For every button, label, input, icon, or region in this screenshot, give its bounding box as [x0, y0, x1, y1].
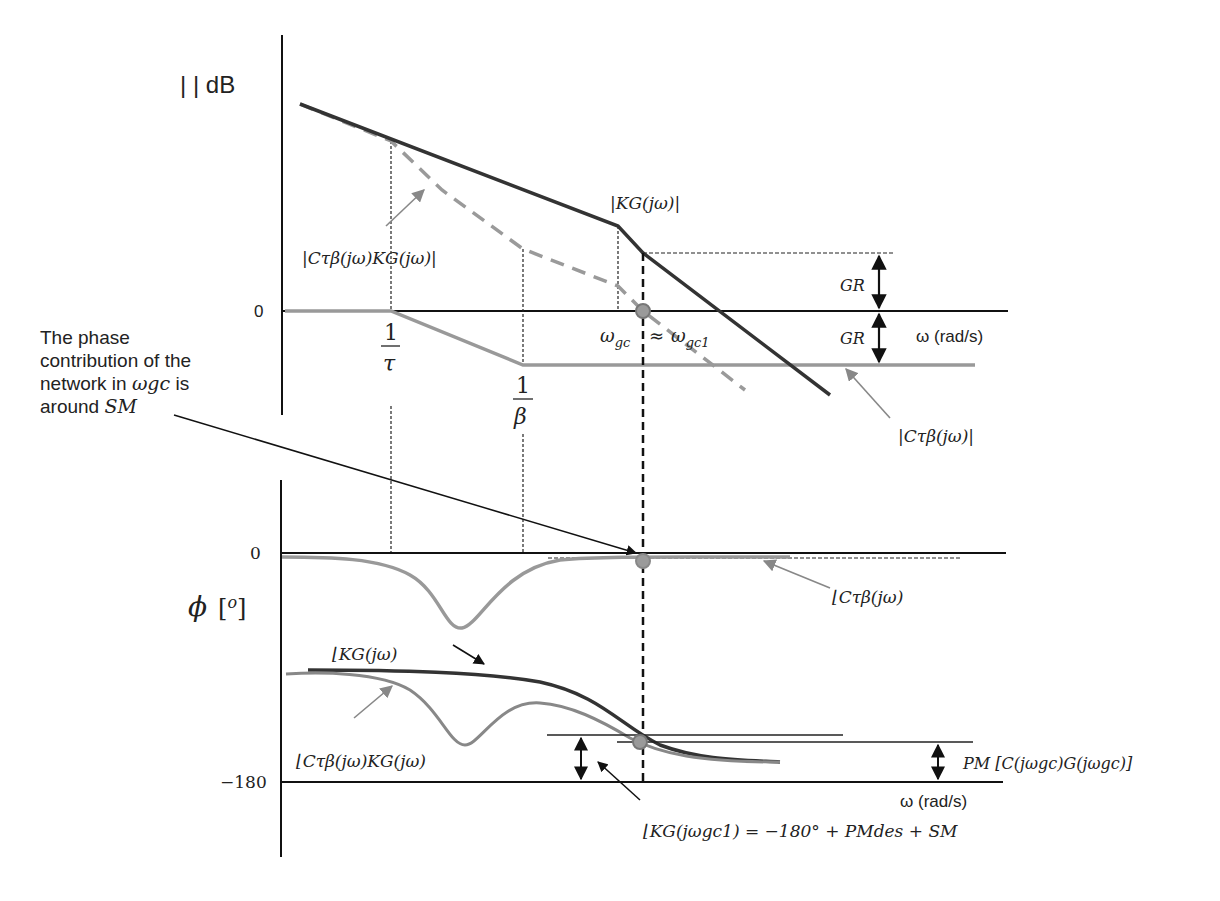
compensated-pointer-arrow — [386, 190, 424, 226]
phase-zero-label: 0 — [250, 543, 261, 563]
phase-plot: 0 −180 ϕ [o] ω (rad/s) ⌊KG(jω) ⌊Cτβ(jω)K… — [188, 480, 1133, 857]
note-line-2: contribution of the — [40, 349, 280, 372]
break-tau-denominator: τ — [383, 351, 396, 376]
magnitude-plot: | | dB 0 ω (rad/s) |KG(jω)| |Cτβ(jω)KG(j… — [180, 35, 1008, 783]
note-line-3: network in ωgc is — [40, 372, 280, 395]
gc1-label: ωgc1 — [671, 325, 710, 350]
compensated-phase-pointer-arrow — [354, 686, 392, 718]
compensated-magnitude-label: |Cτβ(jω)KG(jω)| — [302, 248, 437, 268]
compensator-phase-pointer-arrow — [764, 561, 830, 588]
phase-y-label: ϕ — [188, 590, 207, 623]
kg-phase-curve — [308, 670, 780, 762]
kg-magnitude-label: |KG(jω)| — [610, 193, 680, 213]
kg-phase-label: ⌊KG(jω) — [332, 644, 397, 664]
approx-symbol: ≈ — [649, 325, 664, 346]
magnitude-zero-label: 0 — [254, 302, 263, 321]
bode-diagram: | | dB 0 ω (rad/s) |KG(jω)| |Cτβ(jω)KG(j… — [0, 0, 1220, 901]
phase-minus180-label: −180 — [220, 772, 267, 792]
compensated-phase-curve — [286, 673, 780, 762]
note-line-4: around SM — [40, 395, 280, 418]
condition-label: ⌊KG(jωgc1) = −180° + PMdes + SM — [643, 821, 958, 841]
phase-zero-marker — [636, 554, 650, 568]
phase-y-unit: [o] — [218, 593, 246, 622]
compensator-magnitude-label: |Cτβ(jω)| — [898, 426, 974, 446]
compensated-magnitude-curve — [300, 104, 745, 390]
note-line-1: The phase — [40, 326, 280, 349]
compensated-phase-label: ⌊Cτβ(jω)KG(jω) — [296, 751, 426, 771]
phase-x-axis-label: ω (rad/s) — [900, 792, 967, 811]
gr-upper-label: GR — [840, 276, 865, 295]
kg-phase-pointer-arrow — [453, 645, 484, 664]
break-beta-denominator: β — [513, 404, 527, 429]
phase-contribution-note: The phase contribution of the network in… — [40, 326, 280, 418]
magnitude-y-label: | | dB — [180, 71, 235, 98]
compensator-pointer-arrow — [846, 369, 890, 418]
crossover-marker — [636, 304, 650, 318]
magnitude-x-axis-label: ω (rad/s) — [916, 327, 983, 346]
gr-lower-label: GR — [840, 329, 865, 348]
break-tau-numerator: 1 — [384, 320, 398, 345]
compensator-phase-curve — [282, 557, 790, 628]
gc-label: ωgc — [600, 325, 631, 350]
annotation-pointer-arrow — [174, 415, 636, 553]
phase-gc-marker — [633, 735, 647, 749]
break-beta-numerator: 1 — [516, 373, 530, 398]
pm-label: PM [C(jωgc)G(jωgc)] — [962, 754, 1133, 773]
compensator-phase-label: ⌊Cτβ(jω) — [832, 587, 903, 607]
